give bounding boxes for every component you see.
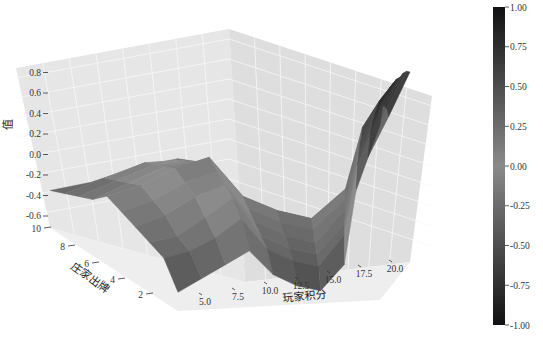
svg-text:4: 4: [110, 275, 115, 285]
svg-text:-0.2: -0.2: [26, 170, 41, 180]
svg-text:-0.75: -0.75: [510, 281, 530, 291]
svg-text:0.2: 0.2: [29, 129, 41, 139]
svg-text:0.00: 0.00: [510, 162, 527, 172]
svg-text:0.25: 0.25: [510, 122, 527, 132]
svg-text:-0.6: -0.6: [26, 211, 41, 221]
svg-text:-0.25: -0.25: [510, 201, 530, 211]
svg-text:10: 10: [32, 224, 42, 234]
svg-text:0.50: 0.50: [510, 82, 527, 92]
z-axis-label: 值: [2, 119, 15, 130]
svg-text:7.5: 7.5: [232, 292, 244, 302]
colorbar: [493, 7, 505, 325]
y-axis-label: 庄家出牌: [68, 259, 112, 296]
surface-plot: -0.6-0.4-0.20.00.20.40.60.8 246810 5.07.…: [0, 0, 543, 337]
colorbar-ticks: 1.000.750.500.250.00-0.25-0.50-0.75-1.00: [505, 3, 530, 331]
svg-text:0.8: 0.8: [29, 68, 41, 78]
svg-text:5.0: 5.0: [199, 297, 211, 307]
svg-text:-1.00: -1.00: [510, 321, 530, 331]
svg-text:-0.4: -0.4: [26, 191, 41, 201]
svg-text:2: 2: [138, 290, 143, 300]
svg-text:0.75: 0.75: [510, 42, 527, 52]
svg-text:8: 8: [60, 242, 65, 252]
svg-text:10.0: 10.0: [262, 286, 279, 296]
svg-text:0.0: 0.0: [29, 150, 41, 160]
svg-text:0.4: 0.4: [29, 109, 41, 119]
svg-text:1.00: 1.00: [510, 3, 527, 13]
svg-text:-0.50: -0.50: [510, 241, 530, 251]
svg-text:15.0: 15.0: [325, 275, 342, 285]
svg-text:20.0: 20.0: [387, 264, 404, 274]
svg-text:0.6: 0.6: [29, 88, 41, 98]
svg-text:17.5: 17.5: [356, 269, 373, 279]
